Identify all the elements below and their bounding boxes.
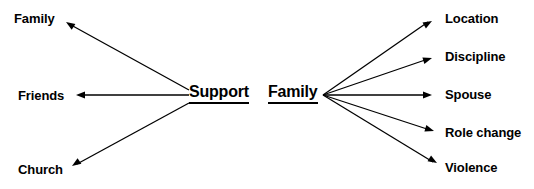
arrowhead-icon [423, 18, 434, 28]
edge-arrowhead-group [64, 18, 439, 169]
arrowhead-icon [70, 158, 81, 169]
leaf-node-discipline[interactable]: Discipline [445, 50, 505, 63]
edge-line [77, 103, 189, 164]
hub-node-family[interactable]: Family [268, 84, 318, 104]
edge-line [323, 95, 430, 130]
hub-node-support[interactable]: Support [189, 84, 249, 104]
leaf-node-violence[interactable]: Violence [445, 161, 497, 174]
leaf-node-family-left[interactable]: Family [14, 12, 55, 25]
leaf-node-spouse[interactable]: Spouse [445, 88, 491, 101]
arrowhead-icon [423, 92, 432, 99]
arrowhead-icon [76, 92, 85, 99]
edge-line-group [71, 22, 433, 164]
leaf-node-role-change[interactable]: Role change [445, 126, 521, 139]
edge-line [71, 25, 189, 90]
leaf-node-location[interactable]: Location [445, 12, 498, 25]
leaf-node-friends[interactable]: Friends [18, 89, 64, 102]
edge-line [323, 22, 428, 95]
arrowhead-icon [428, 155, 439, 165]
diagram-canvas: Support Family Friends Church Family Loc… [0, 0, 534, 189]
edge-line [323, 95, 433, 162]
edge-line [323, 59, 428, 95]
arrowhead-icon [424, 125, 435, 134]
arrowhead-icon [422, 55, 433, 64]
arrowhead-icon [64, 19, 75, 30]
leaf-node-church[interactable]: Church [18, 163, 63, 176]
